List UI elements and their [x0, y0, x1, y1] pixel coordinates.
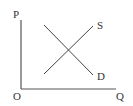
- supply-demand-diagram: P Q O S D: [0, 0, 133, 106]
- x-axis-label: Q: [116, 90, 124, 102]
- supply-label: S: [97, 19, 103, 31]
- y-axis-label: P: [13, 8, 19, 20]
- demand-label: D: [97, 70, 105, 82]
- origin-label: O: [13, 90, 21, 102]
- demand-curve: [44, 25, 93, 75]
